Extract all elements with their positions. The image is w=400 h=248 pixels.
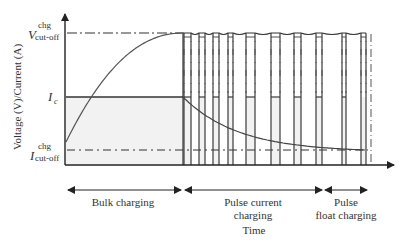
pulse-float-phase-label-line2: float charging (315, 209, 377, 221)
shaded-regions (66, 97, 366, 164)
x-axis-label: Time (243, 224, 266, 236)
pulse-fill-2 (199, 97, 205, 164)
pulse-dotted-guides (184, 41, 366, 93)
pulse-current-phase-label-line1: Pulse current (224, 196, 282, 208)
y-axis-label: Voltage (V)/Current (A) (11, 44, 24, 150)
pulse-fill-3 (213, 97, 219, 164)
pulse-fill-4 (228, 97, 233, 164)
pulse-current-phase-label-line2: charging (234, 209, 273, 221)
bulk-phase-label: Bulk charging (92, 196, 155, 208)
i-cutoff-subscript: cut-off (35, 153, 59, 163)
i-c-label: I (47, 89, 53, 104)
i-c-subscript: c (54, 97, 58, 106)
bulk-fill-region (66, 97, 183, 164)
v-cutoff-superscript: chg (38, 20, 51, 30)
pulse-fill-6 (271, 97, 280, 164)
pulse-fill-5 (246, 97, 255, 164)
pulse-fill-8 (316, 97, 322, 164)
pulse-fill-1 (184, 97, 191, 164)
i-cutoff-superscript: chg (38, 141, 51, 151)
voltage-pulse-top-line (184, 33, 366, 35)
pulse-fill-7 (294, 97, 301, 164)
charging-profile-diagram: V chg cut-off I c I chg cut-off Voltage … (0, 0, 400, 248)
pulse-float-phase-label-line1: Pulse (334, 196, 358, 208)
pulse-fill-10 (361, 97, 366, 164)
v-cutoff-subscript: cut-off (35, 32, 59, 42)
